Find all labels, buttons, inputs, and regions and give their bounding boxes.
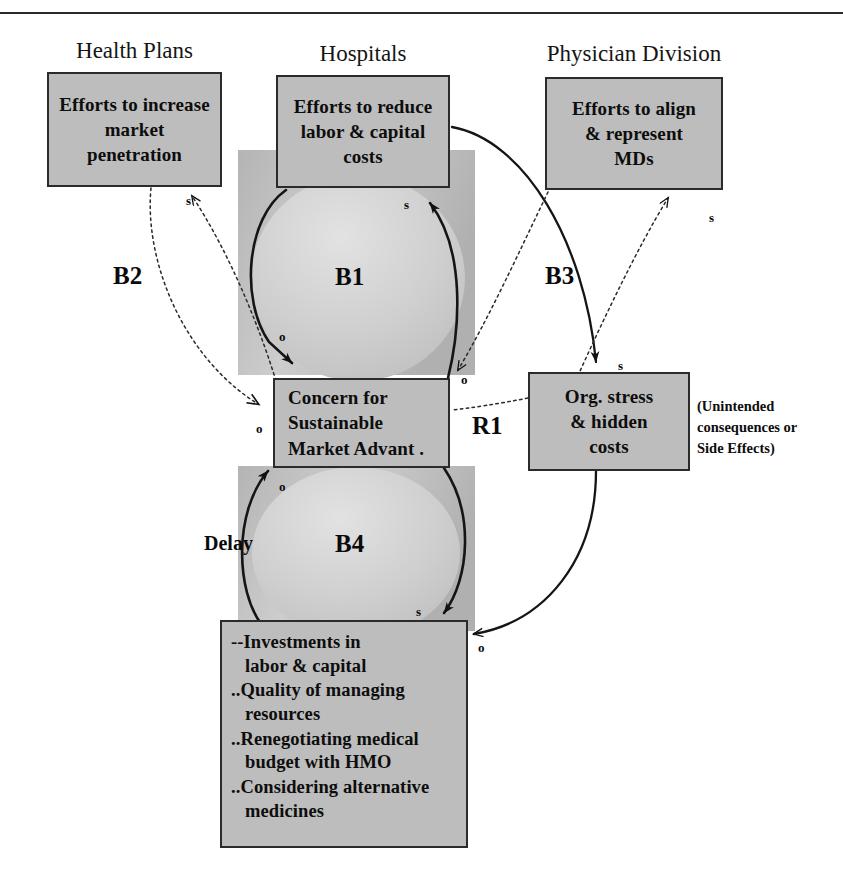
b3-dotted-links [458,192,668,398]
diagram-canvas: Health Plans Hospitals Physician Divisio… [0,0,843,893]
node-org-stress-line-1: Org. stress [565,384,653,409]
node-hospitals-efforts[interactable]: Efforts to reduce labor & capital costs [276,75,450,188]
list-item-text-cont: budget with HMO [231,751,419,775]
list-item-bullet: -- [231,632,244,652]
node-health-plans-line-2: market [105,117,165,142]
polarity-mark-p-b3-s: s [618,358,623,374]
list-item-text-cont: resources [231,703,405,727]
node-concern-line-3: Market Advant . [288,436,424,461]
list-item-text-cont: medicines [231,800,429,824]
list-item: ..Considering alternative medicines [231,776,429,823]
polarity-mark-p-inv-o: o [478,640,485,656]
caption-hospitals: Hospitals [276,41,450,67]
caption-physician-division: Physician Division [524,41,744,67]
node-health-plans-line-1: Efforts to increase [59,92,209,117]
node-hospitals-line-3: costs [343,144,383,169]
polarity-mark-p-b4-s: s [416,604,421,620]
list-item-text: Quality of managing [240,680,404,700]
delay-label: Delay [204,532,253,555]
side-note-line-1: (Unintended [697,396,797,417]
node-concern-sustainable-market-advantage[interactable]: Concern for Sustainable Market Advant . [273,378,450,468]
node-org-stress-hidden-costs[interactable]: Org. stress & hidden costs [528,372,690,471]
loop-label-b4: B4 [335,530,364,558]
node-investments-list[interactable]: --Investments in labor & capital ..Quali… [220,620,468,848]
polarity-mark-p-hosp-s: s [404,197,409,213]
side-note-line-2: consequences or [697,417,797,438]
node-org-stress-line-3: costs [589,434,629,459]
polarity-mark-p-b4-o: o [279,479,286,495]
polarity-mark-p-concern-o: o [256,421,263,437]
node-health-plans-line-3: penetration [87,142,182,167]
arrow-org-stress-to-investments [474,471,596,634]
loop-label-b3: B3 [545,262,574,290]
node-physician-line-2: & represent [585,121,683,146]
node-physician-line-1: Efforts to align [572,96,696,121]
list-item-text: Considering alternative [240,777,429,797]
polarity-mark-p-phys-s: s [709,210,714,226]
list-item-text-cont: labor & capital [231,655,366,679]
node-hospitals-line-2: labor & capital [301,119,426,144]
node-health-plans[interactable]: Efforts to increase market penetration [47,72,222,187]
polarity-mark-p-b3-o: o [461,372,468,388]
loop-label-b1: B1 [335,263,364,291]
polarity-mark-p-b1-o: o [279,329,286,345]
list-item-text: Investments in [244,632,361,652]
loop-label-b2: B2 [113,262,142,290]
node-concern-line-1: Concern for [288,385,388,410]
node-physician-efforts[interactable]: Efforts to align & represent MDs [545,77,723,190]
node-physician-line-3: MDs [614,146,653,171]
caption-health-plans: Health Plans [47,38,222,64]
r1-dotted-link [452,398,528,410]
node-concern-line-2: Sustainable [288,410,383,435]
list-item: --Investments in labor & capital [231,631,366,678]
side-note-line-3: Side Effects) [697,438,797,459]
list-item-text: Renegotiating medical [240,729,418,749]
list-item: ..Renegotiating medical budget with HMO [231,728,419,775]
side-note-unintended-consequences: (Unintended consequences or Side Effects… [697,396,797,459]
polarity-mark-p-hp-s: s [186,193,191,209]
loop-label-r1: R1 [472,412,503,440]
node-org-stress-line-2: & hidden [570,409,647,434]
node-hospitals-line-1: Efforts to reduce [294,94,433,119]
list-item: ..Quality of managing resources [231,679,405,726]
